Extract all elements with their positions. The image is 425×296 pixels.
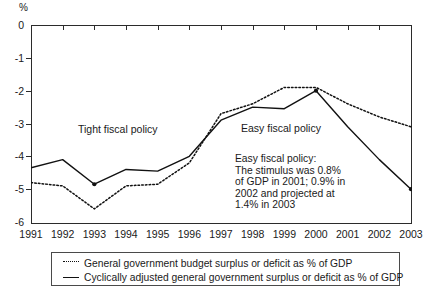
chart-figure: % 0-1-2-3-4-5-6 199119921993199419951996…	[0, 0, 425, 296]
y-axis-tick-label: -4	[0, 151, 24, 161]
note-line-3: of GDP in 2001; 0.9% in	[235, 176, 385, 188]
x-axis-tick-label: 1994	[109, 228, 143, 240]
x-axis-tick-label: 1991	[14, 228, 48, 240]
annotation-easy-fiscal-policy: Easy fiscal policy	[241, 122, 321, 134]
y-axis-tick-label: -6	[0, 217, 24, 227]
legend-label-budget-deficit: General government budget surplus or def…	[84, 258, 352, 270]
x-axis-tick-label: 1993	[77, 228, 111, 240]
series-marker-point	[314, 89, 318, 93]
note-line-2: The stimulus was 0.8%	[235, 165, 385, 177]
annotation-note-easy-fiscal-policy: Easy fiscal policy: The stimulus was 0.8…	[235, 153, 385, 211]
series-marker-point	[92, 182, 96, 186]
x-axis-tick-label: 2000	[299, 228, 333, 240]
note-line-1: Easy fiscal policy:	[235, 153, 385, 165]
y-axis-tick-label: -1	[0, 53, 24, 63]
y-axis-tick-label: -5	[0, 184, 24, 194]
x-axis-tick-label: 1999	[267, 228, 301, 240]
x-axis-tick-label: 1996	[172, 228, 206, 240]
note-line-4: 2002 and projected at	[235, 188, 385, 200]
chart-legend: General government budget surplus or def…	[51, 252, 400, 286]
x-axis-tick-label: 1997	[204, 228, 238, 240]
x-axis-tick-label: 1995	[141, 228, 175, 240]
x-axis-tick-label: 1992	[46, 228, 80, 240]
x-axis-tick-label: 2003	[394, 228, 425, 240]
y-axis-tick-label: -2	[0, 86, 24, 96]
legend-item-budget-deficit: General government budget surplus or def…	[58, 257, 399, 270]
y-axis-unit-label: %	[19, 3, 28, 13]
legend-item-cyclically-adjusted: Cyclically adjusted general government s…	[58, 271, 399, 284]
annotation-tight-fiscal-policy: Tight fiscal policy	[78, 123, 158, 135]
dotted-line-swatch-icon	[58, 259, 84, 269]
axis-bottom-line	[31, 223, 412, 224]
x-axis-tick-label: 2002	[362, 228, 396, 240]
solid-line-swatch-icon	[58, 273, 84, 283]
y-axis-tick-label: 0	[0, 20, 24, 30]
y-axis-tick-label: -3	[0, 119, 24, 129]
x-axis-tick-label: 1998	[236, 228, 270, 240]
legend-label-cyclically-adjusted: Cyclically adjusted general government s…	[84, 272, 403, 284]
x-axis-tick-label: 2001	[331, 228, 365, 240]
note-line-5: 1.4% in 2003	[235, 199, 385, 211]
